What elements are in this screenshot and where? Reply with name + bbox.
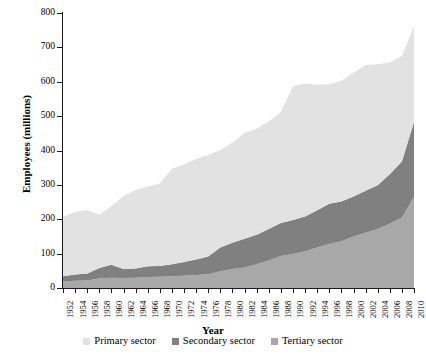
x-tick <box>366 288 367 293</box>
legend-item[interactable]: Primary sector <box>83 336 156 347</box>
x-tick-label: 1954 <box>79 301 88 318</box>
y-tick <box>57 47 62 48</box>
x-tick-label: 1966 <box>151 301 160 318</box>
x-tick-label: 2000 <box>357 301 366 318</box>
x-tick-label: 1996 <box>333 301 342 318</box>
x-tick <box>184 288 185 293</box>
x-tick <box>87 288 88 293</box>
y-tick <box>57 254 62 255</box>
x-tick <box>293 288 294 293</box>
x-tick <box>172 288 173 293</box>
x-tick <box>124 288 125 293</box>
x-tick <box>160 288 161 293</box>
y-tick <box>57 13 62 14</box>
x-tick <box>208 288 209 293</box>
x-tick <box>220 288 221 293</box>
chart-legend: Primary sectorSecondary sectorTertiary s… <box>0 336 426 347</box>
x-tick <box>329 288 330 293</box>
x-tick-label: 1968 <box>163 301 172 318</box>
x-tick-label: 1964 <box>139 301 148 318</box>
x-tick-label: 1960 <box>115 301 124 318</box>
x-tick <box>281 288 282 293</box>
x-tick-label: 1958 <box>103 301 112 318</box>
x-tick-label: 1976 <box>212 301 221 318</box>
x-tick <box>269 288 270 293</box>
x-tick-label: 1962 <box>127 301 136 318</box>
x-tick <box>245 288 246 293</box>
x-tick-label: 1992 <box>309 301 318 318</box>
y-tick <box>57 219 62 220</box>
x-tick <box>148 288 149 293</box>
x-tick <box>75 288 76 293</box>
x-tick-label: 1952 <box>66 301 75 318</box>
x-tick-label: 1982 <box>248 301 257 318</box>
x-tick-label: 2010 <box>417 301 426 318</box>
legend-swatch-icon <box>172 338 179 345</box>
x-tick <box>317 288 318 293</box>
x-tick <box>305 288 306 293</box>
y-tick <box>57 116 62 117</box>
x-tick-label: 2006 <box>393 301 402 318</box>
x-tick <box>136 288 137 293</box>
legend-label: Primary sector <box>94 336 156 347</box>
x-tick <box>402 288 403 293</box>
x-tick-label: 1998 <box>345 301 354 318</box>
x-tick-label: 2004 <box>381 301 390 318</box>
x-tick <box>378 288 379 293</box>
legend-item[interactable]: Tertiary sector <box>271 336 343 347</box>
y-tick <box>57 151 62 152</box>
x-tick <box>99 288 100 293</box>
x-tick-label: 1994 <box>321 301 330 318</box>
x-tick-label: 2002 <box>369 301 378 318</box>
x-tick <box>63 288 64 293</box>
x-tick-label: 1990 <box>296 301 305 318</box>
x-tick-label: 1970 <box>175 301 184 318</box>
x-tick <box>232 288 233 293</box>
x-tick-label: 1978 <box>224 301 233 318</box>
legend-item[interactable]: Secondary sector <box>172 336 255 347</box>
x-tick-label: 1986 <box>272 301 281 318</box>
x-tick <box>390 288 391 293</box>
x-tick <box>414 288 415 293</box>
x-tick-label: 1988 <box>284 301 293 318</box>
y-tick <box>57 82 62 83</box>
legend-swatch-icon <box>83 338 90 345</box>
x-tick-label: 2008 <box>405 301 414 318</box>
x-tick-label: 1972 <box>187 301 196 318</box>
x-tick-label: 1956 <box>91 301 100 318</box>
x-tick <box>111 288 112 293</box>
x-tick-label: 1974 <box>200 301 209 318</box>
x-tick-label: 1980 <box>236 301 245 318</box>
y-tick <box>57 288 62 289</box>
legend-swatch-icon <box>271 338 278 345</box>
x-tick <box>354 288 355 293</box>
legend-label: Tertiary sector <box>282 336 343 347</box>
x-tick-label: 1984 <box>260 301 269 318</box>
x-axis-ticks: 1952195419561958196019621964196619681970… <box>0 0 426 355</box>
x-tick <box>196 288 197 293</box>
x-tick <box>257 288 258 293</box>
chart-container: Employees (millions) 0100200300400500600… <box>0 0 426 355</box>
y-tick <box>57 185 62 186</box>
x-tick <box>341 288 342 293</box>
legend-label: Secondary sector <box>183 336 255 347</box>
